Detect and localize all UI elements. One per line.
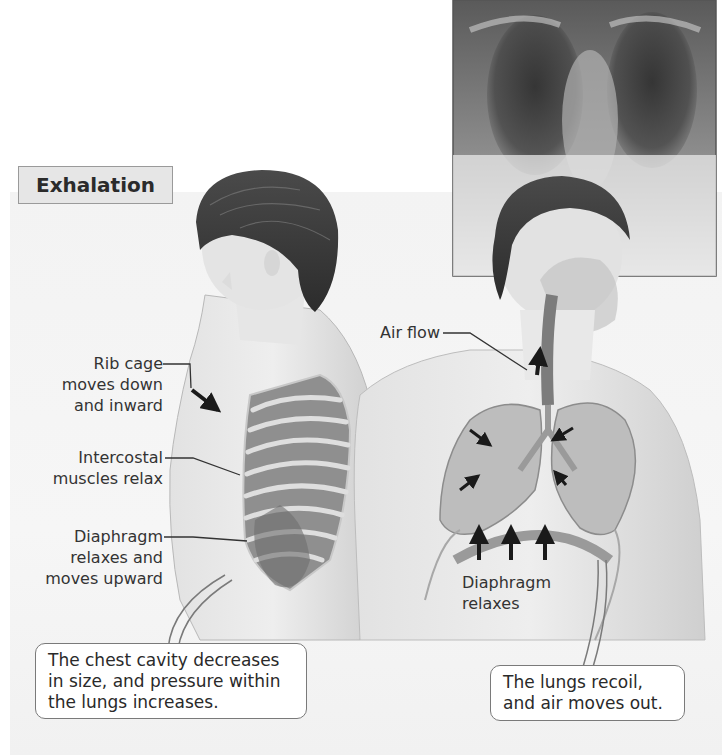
side-view-person: [170, 170, 376, 640]
callout-chest-cavity: The chest cavity decreases in size, and …: [35, 643, 307, 719]
exhalation-figure: Exhalation Rib cage moves down and inwar…: [0, 0, 722, 755]
label-diaphragm-relaxes: Diaphragm relaxes: [462, 572, 551, 614]
label-intercostal-muscles: Intercostal muscles relax: [46, 447, 163, 489]
callout-lungs-recoil: The lungs recoil, and air moves out.: [490, 665, 685, 721]
label-air-flow: Air flow: [372, 322, 440, 343]
label-rib-cage: Rib cage moves down and inward: [56, 353, 163, 416]
figure-title: Exhalation: [18, 166, 173, 204]
label-diaphragm-side: Diaphragm relaxes and moves upward: [36, 526, 163, 589]
